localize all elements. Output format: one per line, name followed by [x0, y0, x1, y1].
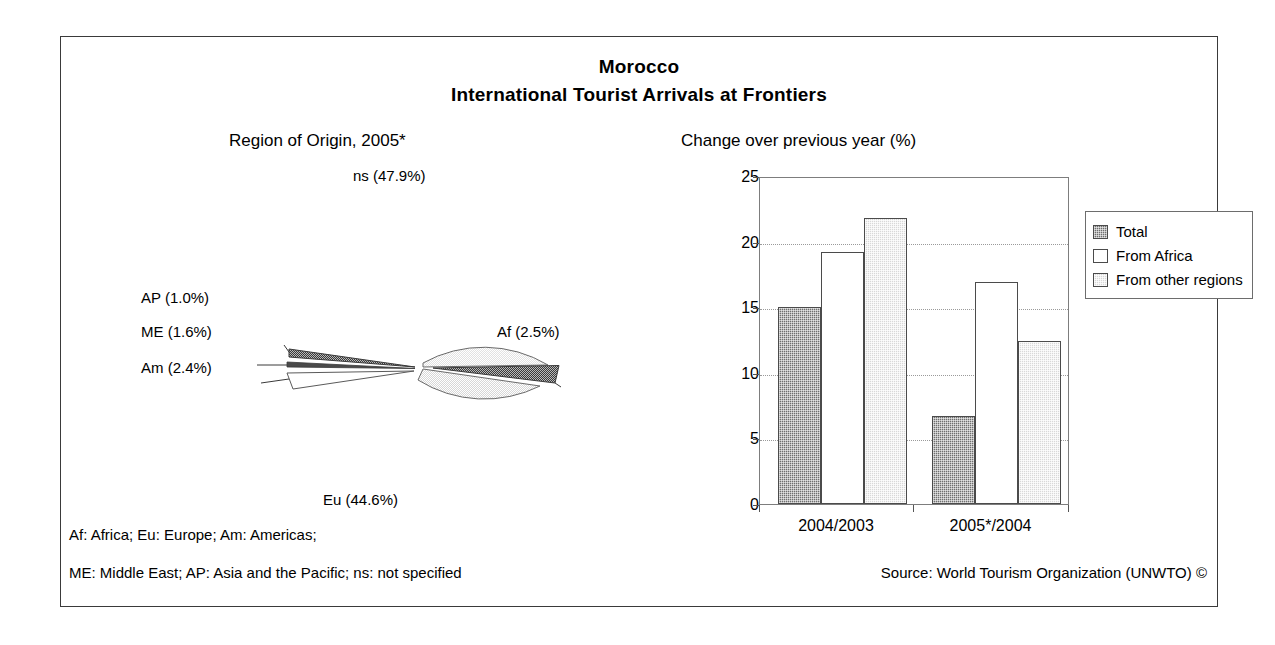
- bar-2004-2003-other: [864, 218, 907, 504]
- bar-chart-subtitle: Change over previous year (%): [681, 131, 916, 151]
- legend-item-other: From other regions: [1093, 271, 1243, 288]
- pie-chart-subtitle: Region of Origin, 2005*: [229, 131, 406, 151]
- bar-2005-2004-total: [932, 416, 975, 504]
- legend-swatch-total: [1093, 225, 1108, 239]
- legend-swatch-africa: [1093, 249, 1108, 263]
- pie-label-ap: AP (1.0%): [141, 289, 209, 306]
- x-tickmark-right: [1068, 505, 1069, 512]
- leader-line-ap: [284, 345, 289, 352]
- legend-label-africa: From Africa: [1116, 247, 1193, 264]
- bar-2005-2004-africa: [975, 282, 1018, 504]
- bar-chart-legend: Total From Africa From other regions: [1085, 211, 1253, 299]
- leader-line-af: [555, 383, 561, 387]
- gridline-20: [760, 244, 1068, 245]
- legend-label-total: Total: [1116, 223, 1148, 240]
- legend-item-africa: From Africa: [1093, 247, 1243, 264]
- x-category-2004-2003: 2004/2003: [759, 517, 913, 535]
- x-tickmark-left: [759, 505, 760, 512]
- source-note: Source: World Tourism Organization (UNWT…: [881, 564, 1207, 581]
- bar-2004-2003-total: [778, 307, 821, 504]
- x-tickmark-middle: [913, 505, 914, 512]
- bar-plot-area: [759, 177, 1069, 505]
- pie-chart: ns (47.9%) Af (2.5%) Eu (44.6%) AP (1.0%…: [141, 157, 581, 557]
- chart-frame: Morocco International Tourist Arrivals a…: [60, 36, 1218, 607]
- pie-label-me: ME (1.6%): [141, 323, 212, 340]
- footnote-line-2: ME: Middle East; AP: Asia and the Pacifi…: [69, 564, 462, 581]
- page-title: Morocco: [61, 56, 1217, 78]
- x-category-2005-2004: 2005*/2004: [913, 517, 1068, 535]
- leader-line-am: [261, 379, 289, 383]
- pie-slice-ns: [423, 347, 548, 367]
- legend-item-total: Total: [1093, 223, 1243, 240]
- pie-label-eu: Eu (44.6%): [323, 491, 398, 508]
- footnote-line-1: Af: Africa; Eu: Europe; Am: Americas;: [69, 526, 317, 543]
- pie-label-af: Af (2.5%): [497, 323, 560, 340]
- legend-swatch-other: [1093, 273, 1108, 287]
- legend-label-other: From other regions: [1116, 271, 1243, 288]
- pie-label-ns: ns (47.9%): [353, 167, 426, 184]
- pie-label-am: Am (2.4%): [141, 359, 212, 376]
- page-subtitle: International Tourist Arrivals at Fronti…: [61, 84, 1217, 106]
- bar-chart: 25 20 15 10 5 0: [661, 157, 1206, 577]
- bar-2005-2004-other: [1018, 341, 1061, 504]
- bar-2004-2003-africa: [821, 252, 864, 504]
- y-axis: 25 20 15 10 5 0: [721, 157, 759, 525]
- pie-slice-am: [287, 371, 414, 389]
